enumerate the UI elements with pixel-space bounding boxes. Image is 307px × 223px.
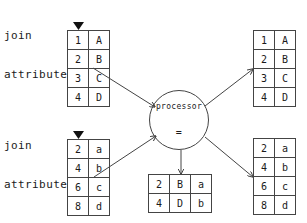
table-cell: 8	[254, 196, 275, 215]
table-cell: 2	[254, 139, 275, 158]
join-result-relation: 2Ba 4Db	[148, 174, 212, 213]
table-row: 4b	[68, 159, 110, 178]
table-cell: c	[275, 177, 296, 196]
table-cell: 3	[68, 69, 89, 88]
table-cell: A	[275, 31, 296, 50]
table-cell: D	[275, 88, 296, 107]
table-cell: 4	[254, 88, 275, 107]
join-label-line1: join	[4, 29, 67, 42]
table-cell: 2	[149, 175, 170, 194]
table-cell: d	[275, 196, 296, 215]
output-relation-bottom: 2a 4b 6c 8d	[253, 138, 296, 215]
table-cell: 1	[254, 31, 275, 50]
table-cell: A	[89, 31, 110, 50]
table-row: 4Db	[149, 194, 212, 213]
table-row: 2Ba	[149, 175, 212, 194]
table-cell: 4	[149, 194, 170, 213]
table-row: 1A	[68, 31, 110, 50]
table-cell: 1	[68, 31, 89, 50]
join-attribute-label-top: join attribute	[4, 3, 67, 94]
table-cell: 3	[254, 69, 275, 88]
table-cell: b	[191, 194, 212, 213]
join-attribute-marker-top	[73, 22, 84, 30]
input-relation-top: 1A 2B 3C 4D	[67, 30, 110, 107]
table-cell: 6	[68, 178, 89, 197]
output-relation-top: 1A 2B 3C 4D	[253, 30, 296, 107]
table-row: 3C	[254, 69, 296, 88]
table-row: 2B	[68, 50, 110, 69]
table-row: 2B	[254, 50, 296, 69]
arrow-processor-to-output-top	[205, 69, 253, 106]
table-cell: C	[89, 69, 110, 88]
input-relation-bottom: 2a 4b 6c 8d	[67, 139, 110, 216]
table-row: 8d	[68, 197, 110, 216]
table-cell: 8	[68, 197, 89, 216]
join-label-line2: attribute	[4, 178, 67, 191]
table-cell: 6	[254, 177, 275, 196]
table-cell: d	[89, 197, 110, 216]
table-cell: 2	[68, 140, 89, 159]
table-row: 2a	[254, 139, 296, 158]
table-cell: D	[170, 194, 191, 213]
table-cell: 4	[254, 158, 275, 177]
table-cell: D	[89, 88, 110, 107]
table-row: 4D	[68, 88, 110, 107]
table-row: 6c	[254, 177, 296, 196]
table-cell: 4	[68, 159, 89, 178]
join-attribute-label-bottom: join attribute	[4, 113, 67, 204]
table-cell: B	[170, 175, 191, 194]
table-cell: b	[275, 158, 296, 177]
table-cell: C	[275, 69, 296, 88]
table-cell: a	[191, 175, 212, 194]
table-cell: c	[89, 178, 110, 197]
table-cell: b	[89, 159, 110, 178]
table-row: 1A	[254, 31, 296, 50]
processor-circle	[150, 91, 209, 150]
table-row: 3C	[68, 69, 110, 88]
join-label-line1: join	[4, 139, 67, 152]
table-cell: 2	[68, 50, 89, 69]
table-cell: a	[89, 140, 110, 159]
join-attribute-marker-bottom	[73, 131, 84, 139]
table-row: 2a	[68, 140, 110, 159]
table-cell: B	[275, 50, 296, 69]
table-row: 8d	[254, 196, 296, 215]
processor-title: processor	[150, 102, 208, 111]
table-row: 4D	[254, 88, 296, 107]
table-cell: 4	[68, 88, 89, 107]
arrow-processor-to-output-bottom	[205, 137, 253, 177]
table-row: 6c	[68, 178, 110, 197]
join-label-line2: attribute	[4, 68, 67, 81]
processor-operator: =	[150, 127, 208, 138]
table-cell: 2	[254, 50, 275, 69]
table-cell: a	[275, 139, 296, 158]
table-row: 4b	[254, 158, 296, 177]
table-cell: B	[89, 50, 110, 69]
